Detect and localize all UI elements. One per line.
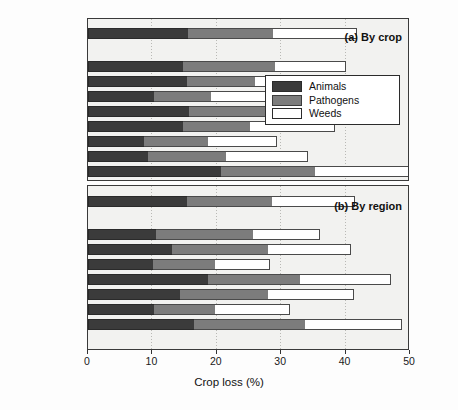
bar-segment-weeds: [275, 61, 346, 72]
x-tick: [216, 350, 217, 354]
bar-segment-weeds: [268, 244, 350, 255]
bar-row: [88, 196, 355, 207]
bar-segment-animals: [88, 304, 154, 315]
bar-segment-pathogens: [153, 259, 215, 270]
bar-row: [88, 319, 402, 330]
bar-segment-animals: [88, 136, 144, 147]
bar-row: [88, 166, 408, 177]
x-tick-label: 40: [339, 355, 351, 367]
bar-segment-animals: [88, 61, 183, 72]
bar-segment-animals: [88, 244, 172, 255]
bar-row: [88, 91, 294, 102]
bar-segment-weeds: [226, 151, 307, 162]
panel-a-title: (a) By crop: [345, 31, 402, 43]
bar-row: [88, 259, 270, 270]
bar-segment-pathogens: [183, 121, 250, 132]
bar-segment-weeds: [305, 319, 402, 330]
x-tick-label: 30: [274, 355, 286, 367]
bar-segment-pathogens: [144, 136, 208, 147]
x-tick: [345, 350, 346, 354]
x-axis: 01020304050: [87, 350, 409, 351]
legend-item-pathogens: Pathogens: [272, 94, 393, 107]
bar-segment-pathogens: [187, 196, 272, 207]
x-tick: [151, 350, 152, 354]
bar-segment-animals: [88, 28, 188, 39]
bar-segment-pathogens: [156, 229, 253, 240]
bar-segment-animals: [88, 229, 156, 240]
panel-b-by-region: (b) By region: [87, 185, 409, 350]
bar-segment-weeds: [300, 274, 391, 285]
bar-segment-animals: [88, 259, 153, 270]
bar-segment-pathogens: [187, 76, 256, 87]
bar-row: [88, 274, 391, 285]
bar-segment-animals: [88, 274, 208, 285]
bar-segment-pathogens: [154, 91, 211, 102]
x-tick-label: 10: [146, 355, 158, 367]
bar-segment-pathogens: [183, 61, 275, 72]
bar-segment-pathogens: [148, 151, 227, 162]
x-tick-label: 20: [210, 355, 222, 367]
bar-segment-weeds: [208, 136, 277, 147]
legend-swatch-pathogens-icon: [272, 95, 302, 106]
bar-segment-weeds: [268, 289, 354, 300]
bar-segment-pathogens: [154, 304, 215, 315]
bar-segment-pathogens: [180, 289, 268, 300]
x-tick: [87, 350, 88, 354]
bar-segment-animals: [88, 166, 221, 177]
bar-segment-animals: [88, 121, 183, 132]
bar-segment-animals: [88, 319, 194, 330]
bar-segment-animals: [88, 91, 154, 102]
bar-segment-animals: [88, 76, 187, 87]
bar-segment-animals: [88, 289, 180, 300]
bar-row: [88, 289, 354, 300]
bar-segment-weeds: [253, 229, 319, 240]
bar-segment-pathogens: [194, 319, 305, 330]
panel-b-title: (b) By region: [334, 200, 402, 212]
bar-segment-pathogens: [188, 28, 272, 39]
bar-segment-weeds: [215, 304, 290, 315]
bar-segment-weeds: [315, 166, 408, 177]
bar-segment-animals: [88, 151, 148, 162]
x-tick: [409, 350, 410, 354]
bar-row: [88, 28, 357, 39]
bar-row: [88, 229, 320, 240]
bar-segment-weeds: [215, 259, 270, 270]
bar-segment-pathogens: [208, 274, 299, 285]
bar-segment-pathogens: [172, 244, 268, 255]
bar-row: [88, 61, 346, 72]
bar-row: [88, 304, 290, 315]
bar-row: [88, 136, 277, 147]
legend-label-animals: Animals: [309, 81, 346, 92]
x-tick-label: 0: [84, 355, 90, 367]
legend: Animals Pathogens Weeds: [265, 75, 400, 125]
x-tick: [280, 350, 281, 354]
legend-label-weeds: Weeds: [309, 108, 342, 119]
x-axis-title: Crop loss (%): [0, 376, 458, 388]
figure-canvas: (a) By crop (b) By region Animals Pathog…: [0, 0, 458, 410]
legend-swatch-animals-icon: [272, 81, 302, 92]
bar-segment-animals: [88, 106, 189, 117]
legend-swatch-weeds-icon: [272, 108, 302, 119]
legend-label-pathogens: Pathogens: [309, 95, 359, 106]
bar-segment-animals: [88, 196, 187, 207]
legend-item-weeds: Weeds: [272, 107, 393, 120]
bar-row: [88, 151, 308, 162]
bar-row: [88, 244, 351, 255]
x-tick-label: 50: [403, 355, 415, 367]
bar-segment-pathogens: [221, 166, 316, 177]
legend-item-animals: Animals: [272, 80, 393, 93]
